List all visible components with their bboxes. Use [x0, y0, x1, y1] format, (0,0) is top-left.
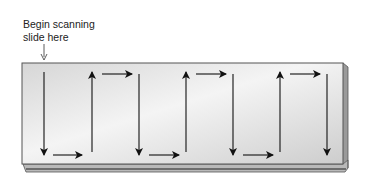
glass-slide	[22, 63, 348, 172]
slide-scanning-diagram	[0, 0, 365, 177]
start-indicator-arrow	[41, 44, 47, 60]
